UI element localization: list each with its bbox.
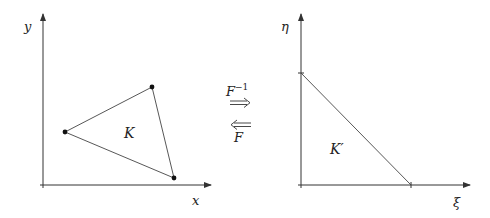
element-label-k-prime: K′ [329, 141, 344, 157]
vertex-point [150, 85, 155, 90]
y-axis-label: y [23, 19, 32, 34]
element-label-k: K [123, 125, 136, 141]
backward-arrow-icon [231, 120, 251, 130]
xi-axis-label: ξ [453, 195, 461, 210]
reference-triangle-hypotenuse [301, 73, 411, 185]
mapping-arrows: F−1 F [225, 82, 251, 145]
physical-triangle [65, 87, 174, 178]
forward-map-label: F−1 [225, 82, 248, 99]
vertex-point [172, 176, 177, 181]
right-panel: η ξ K′ [281, 14, 470, 210]
forward-arrow-icon [230, 98, 250, 108]
left-panel: y x K [23, 14, 211, 208]
backward-map-label: F [233, 130, 244, 145]
x-axis-label: x [192, 193, 200, 208]
mapping-diagram: y x K F−1 F η ξ K′ [0, 0, 490, 218]
eta-axis-label: η [281, 19, 289, 34]
vertex-point [63, 130, 68, 135]
